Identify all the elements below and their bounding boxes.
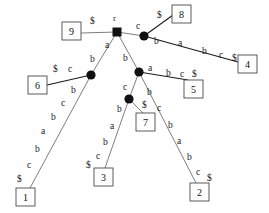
label-b-1-a: a (41, 127, 45, 137)
leaf-9-label: 9 (62, 26, 81, 37)
label-mid-2-b: b (147, 88, 152, 98)
label-mid-2-a: a (177, 137, 181, 147)
label-low-3-c: c (96, 152, 100, 162)
label-c-4-b: b (154, 37, 159, 47)
label-mid-2-c: c (157, 104, 161, 114)
label-low-3-b: b (117, 105, 122, 115)
label-root-r: r (113, 14, 116, 23)
root-node (113, 28, 122, 37)
leaf-1-label: 1 (16, 192, 35, 203)
label-b-1-b2: b (51, 113, 56, 123)
label-mid-5-c: c (180, 70, 184, 80)
label-mid-5-dollar: $ (192, 70, 197, 80)
leaf-7-label: 7 (136, 117, 155, 128)
label-mid-5-b: b (166, 69, 171, 79)
label-c-4-dollar: $ (232, 54, 237, 64)
edge-root-b (117, 32, 139, 72)
label-root-c: c (136, 22, 140, 32)
label-low-3-b2: b (103, 138, 108, 148)
internal-node-n_c (139, 31, 148, 40)
label-b-1-b: b (71, 86, 76, 96)
leaf-6-label: 6 (28, 80, 47, 91)
leaf-2-label: 2 (190, 187, 209, 198)
nodes-group (86, 28, 148, 104)
label-low-3-dollar: $ (86, 161, 91, 171)
leaf-5-label: 5 (184, 84, 203, 95)
leaf-4-label: 4 (238, 59, 257, 70)
label-c-4-c: c (219, 51, 223, 61)
edge-root-9 (81, 32, 117, 33)
label-b-1-dollar: $ (17, 175, 22, 185)
leaf-3-label: 3 (94, 172, 113, 183)
edge-b-6 (47, 75, 91, 85)
label-b-1-c: c (61, 99, 65, 109)
label-mid-2-dollar: $ (207, 174, 212, 184)
label-mid-2-b3: b (187, 153, 192, 163)
label-c-4-a: a (178, 39, 182, 49)
label-b-6-dollar: $ (53, 65, 58, 75)
label-root-b: b (123, 54, 128, 64)
label-root-a: a (105, 41, 109, 51)
label-low-7-dollar: $ (142, 101, 147, 111)
internal-node-n_mid (134, 67, 143, 76)
label-mid-low-c: c (123, 83, 127, 93)
label-mid-a: a (148, 64, 152, 74)
label-b-1-c2: c (27, 161, 31, 171)
label-mid-2-c2: c (196, 168, 200, 178)
leaf-8-label: 8 (172, 9, 191, 20)
suffix-tree-figure: r$c$babc$abb$cbcbabc$abc$cbcbabc$$babc$ … (0, 0, 269, 213)
label-root-a-b: b (90, 55, 95, 65)
tree-graphics (0, 0, 269, 213)
label-b-1-b3: b (35, 145, 40, 155)
label-c-8-dollar: $ (157, 11, 162, 21)
label-low-3-a: a (110, 122, 114, 132)
internal-node-n_b (86, 70, 95, 79)
label-b-6-c: c (68, 65, 72, 75)
label-c-4-b2: b (202, 47, 207, 57)
label-mid-2-b2: b (168, 121, 173, 131)
internal-node-n_low (124, 94, 133, 103)
label-root-9-dollar: $ (90, 17, 95, 27)
